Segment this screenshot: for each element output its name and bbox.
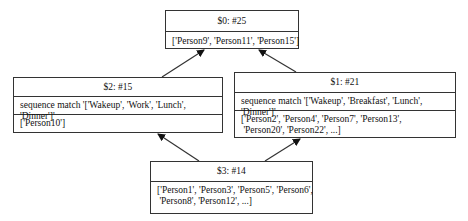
node-3: $3: #14 ['Person1', 'Person3', 'Person5'…	[150, 161, 313, 214]
node-1-members: ['Person2', 'Person4', 'Person7', 'Perso…	[235, 110, 455, 139]
node-0: $0: #25 ['Person9', 'Person11', 'Person1…	[165, 10, 299, 49]
node-0-title: $0: #25	[166, 11, 298, 31]
node-2-title: $2: #15	[14, 78, 222, 96]
edge-3-to-2	[158, 134, 199, 161]
node-3-members: ['Person1', 'Person3', 'Person5', 'Perso…	[151, 181, 312, 210]
node-1: $1: #21 sequence match '['Wakeup', 'Brea…	[234, 72, 456, 138]
node-2-condition: sequence match '['Wakeup', 'Work', 'Lunc…	[14, 96, 222, 114]
node-1-condition: sequence match '['Wakeup', 'Breakfast', …	[235, 92, 455, 110]
node-3-title: $3: #14	[151, 162, 312, 181]
node-0-members: ['Person9', 'Person11', 'Person15']	[166, 31, 298, 50]
edge-1-to-0	[259, 50, 296, 72]
edge-3-to-1	[265, 139, 300, 161]
node-1-title: $1: #21	[235, 73, 455, 92]
node-2: $2: #15 sequence match '['Wakeup', 'Work…	[13, 77, 223, 133]
edge-2-to-0	[162, 50, 204, 77]
